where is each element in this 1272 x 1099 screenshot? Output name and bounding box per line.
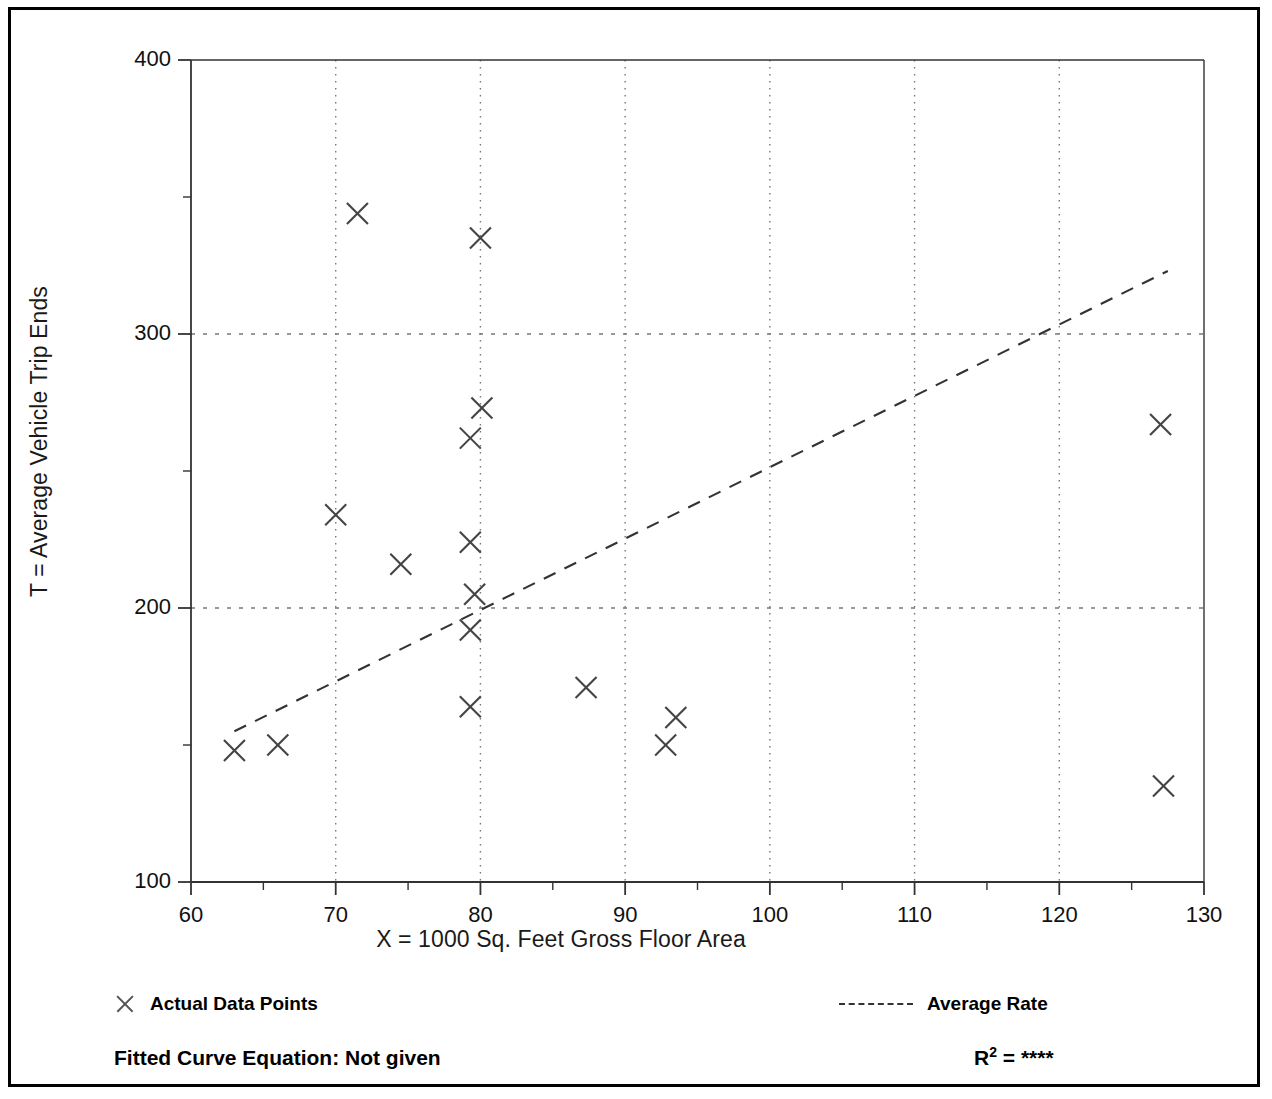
x-tick-label: 60 xyxy=(156,902,226,928)
data-point-marker xyxy=(267,735,288,756)
fitted-curve-equation-caption: Fitted Curve Equation: Not given xyxy=(114,1046,441,1070)
data-point-marker xyxy=(460,696,481,717)
dashed-line-icon xyxy=(839,1003,913,1005)
y-tick-label: 300 xyxy=(101,320,171,346)
y-tick-label: 100 xyxy=(101,868,171,894)
data-point-marker xyxy=(464,584,485,605)
r-squared-symbol: R xyxy=(974,1046,989,1069)
gridlines xyxy=(191,60,1204,882)
legend-label-actual-data-points: Actual Data Points xyxy=(150,993,318,1015)
y-tick-label: 200 xyxy=(101,594,171,620)
average-rate-trendline xyxy=(234,271,1167,731)
x-tick-label: 90 xyxy=(590,902,660,928)
data-point-marker xyxy=(347,203,368,224)
data-point-marker xyxy=(665,707,686,728)
data-point-marker xyxy=(1150,414,1171,435)
data-point-marker xyxy=(576,677,597,698)
legend-label-average-rate: Average Rate xyxy=(927,993,1048,1015)
y-axis-title: T = Average Vehicle Trip Ends xyxy=(26,232,53,652)
legend-item-average-rate: Average Rate xyxy=(839,993,1048,1015)
figure-frame: T = Average Vehicle Trip Ends X = 1000 S… xyxy=(8,7,1260,1087)
x-tick-label: 80 xyxy=(445,902,515,928)
data-point-marker xyxy=(655,735,676,756)
x-tick-label: 70 xyxy=(301,902,371,928)
data-point-marker xyxy=(460,532,481,553)
axis-ticks xyxy=(178,60,1204,895)
data-point-marker xyxy=(390,554,411,575)
r-squared-caption: R2 = **** xyxy=(974,1044,1054,1070)
scatter-chart-figure: T = Average Vehicle Trip Ends X = 1000 S… xyxy=(11,10,1257,1084)
x-marker-icon xyxy=(114,993,136,1015)
data-point-marker xyxy=(224,740,245,761)
x-axis-title: X = 1000 Sq. Feet Gross Floor Area xyxy=(11,926,1111,953)
data-point-marker xyxy=(1153,776,1174,797)
data-point-marker xyxy=(471,397,492,418)
y-tick-label: 400 xyxy=(101,46,171,72)
data-point-marker xyxy=(470,228,491,249)
data-point-marker xyxy=(460,428,481,449)
x-tick-label: 100 xyxy=(735,902,805,928)
r-squared-value: = **** xyxy=(1003,1046,1054,1069)
x-tick-label: 110 xyxy=(880,902,950,928)
x-tick-label: 120 xyxy=(1024,902,1094,928)
legend-item-actual-data-points: Actual Data Points xyxy=(114,993,318,1015)
r-squared-exponent: 2 xyxy=(989,1044,997,1060)
data-point-markers xyxy=(224,203,1174,797)
data-point-marker xyxy=(460,619,481,640)
axis-lines xyxy=(191,60,1204,882)
x-tick-label: 130 xyxy=(1169,902,1239,928)
